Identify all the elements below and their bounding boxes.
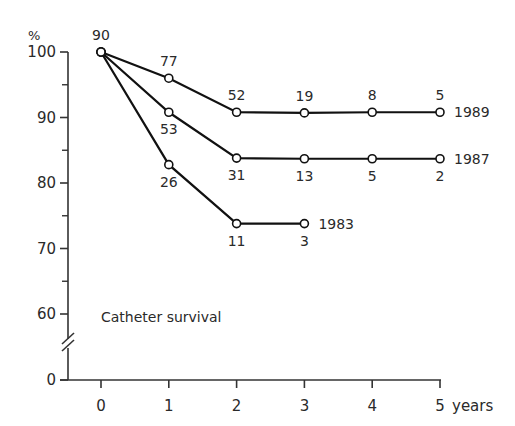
series-1983: 261131983 — [97, 48, 354, 249]
series-label: 1989 — [454, 104, 490, 120]
axes — [60, 52, 441, 380]
chart-title: Catheter survival — [101, 309, 222, 325]
x-tick-label: 3 — [300, 397, 310, 415]
data-point — [436, 108, 444, 116]
data-point — [97, 48, 105, 56]
series-1987: 533113521987 — [97, 48, 490, 184]
n-at-risk-label: 5 — [368, 168, 377, 184]
x-tick-label: 5 — [435, 397, 445, 415]
y-tick-label: 70 — [37, 240, 56, 258]
n-at-risk-label: 8 — [368, 87, 377, 103]
data-point — [233, 108, 241, 116]
data-point — [300, 220, 308, 228]
n-at-risk-label: 52 — [228, 87, 246, 103]
n-at-risk-label: 3 — [300, 233, 309, 249]
series-group: 90775219851989533113521987261131983 — [92, 27, 490, 249]
survival-chart: 060708090100 012345 % years Catheter sur… — [0, 0, 515, 426]
data-point — [165, 161, 173, 169]
y-tick-label: 90 — [37, 109, 56, 127]
n-at-risk-label: 90 — [92, 27, 110, 43]
y-tick-label: 100 — [27, 43, 56, 61]
y-ticks: 060708090100 — [27, 43, 68, 389]
n-at-risk-label: 31 — [228, 167, 246, 183]
series-label: 1987 — [454, 151, 490, 167]
x-tick-label: 0 — [96, 397, 106, 415]
series-line — [101, 52, 440, 159]
y-tick-label: 0 — [46, 371, 56, 389]
data-point — [300, 109, 308, 117]
data-point — [436, 155, 444, 163]
n-at-risk-label: 11 — [228, 233, 246, 249]
x-ticks: 012345 — [96, 380, 445, 415]
y-tick-label: 80 — [37, 174, 56, 192]
data-point — [233, 220, 241, 228]
series-label: 1983 — [318, 216, 354, 232]
series-1989: 90775219851989 — [92, 27, 490, 120]
data-point — [368, 108, 376, 116]
y-tick-label: 60 — [37, 305, 56, 323]
data-point — [233, 154, 241, 162]
series-line — [101, 52, 440, 113]
y-axis-label: % — [28, 28, 40, 43]
x-axis-label: years — [452, 397, 493, 415]
n-at-risk-label: 26 — [160, 174, 178, 190]
n-at-risk-label: 13 — [295, 168, 313, 184]
x-tick-label: 4 — [367, 397, 377, 415]
data-point — [368, 155, 376, 163]
x-tick-label: 1 — [164, 397, 174, 415]
n-at-risk-label: 2 — [436, 168, 445, 184]
data-point — [300, 155, 308, 163]
data-point — [165, 108, 173, 116]
n-at-risk-label: 53 — [160, 121, 178, 137]
data-point — [165, 74, 173, 82]
n-at-risk-label: 19 — [295, 88, 313, 104]
n-at-risk-label: 5 — [436, 87, 445, 103]
x-tick-label: 2 — [232, 397, 242, 415]
n-at-risk-label: 77 — [160, 53, 178, 69]
